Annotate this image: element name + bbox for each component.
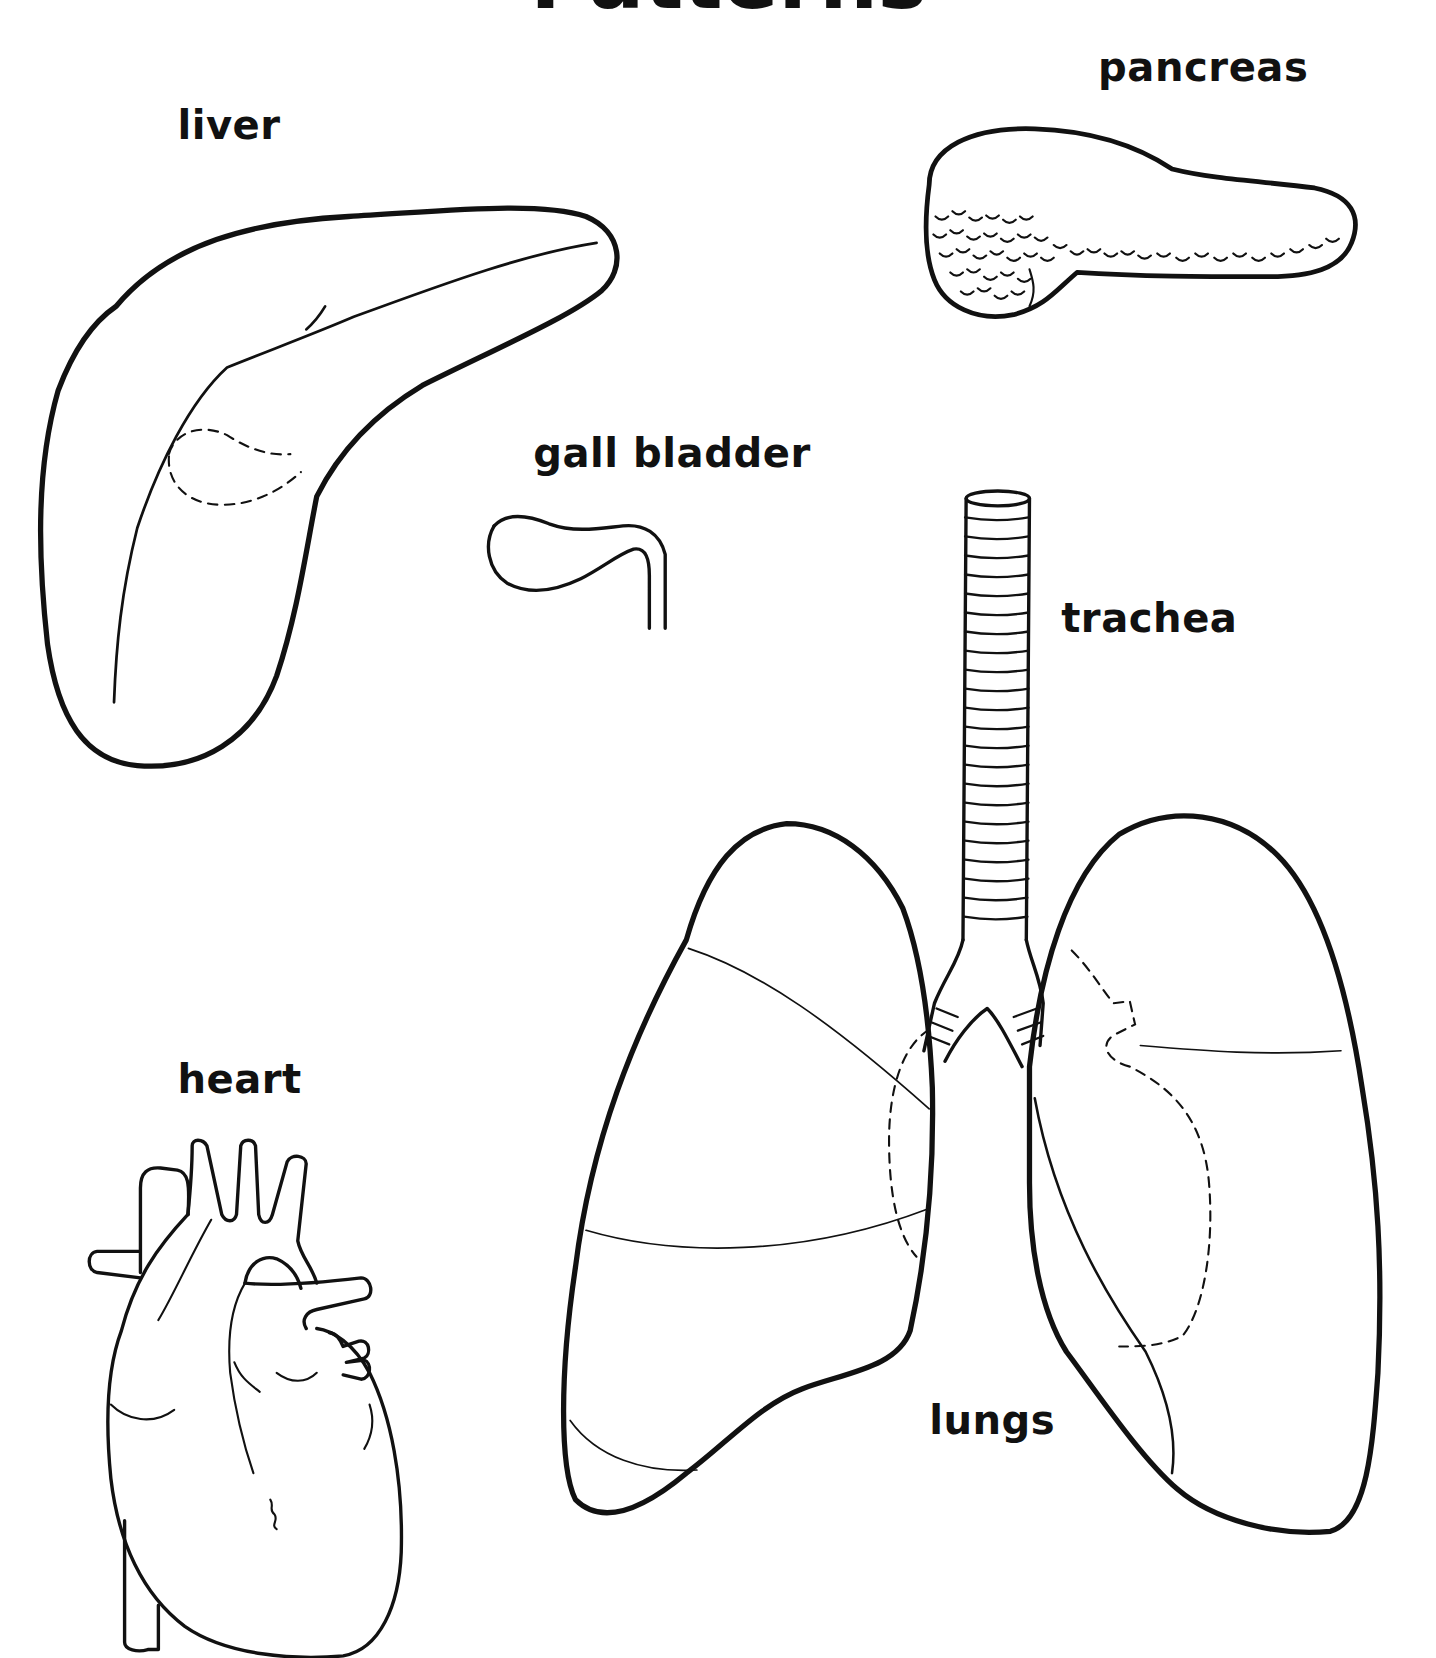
gall-bladder-illustration xyxy=(488,517,665,629)
liver-illustration xyxy=(41,208,617,766)
trachea-illustration xyxy=(924,491,1043,1067)
label-gall-bladder: gall bladder xyxy=(533,430,810,476)
heart-illustration xyxy=(89,1140,401,1657)
label-liver: liver xyxy=(177,102,280,148)
worksheet: Patterns liver pancreas gall bladder tra… xyxy=(0,0,1436,1658)
label-pancreas: pancreas xyxy=(1098,44,1308,90)
label-lungs: lungs xyxy=(929,1397,1055,1443)
label-heart: heart xyxy=(177,1056,301,1102)
organ-diagram: Patterns liver pancreas gall bladder tra… xyxy=(0,0,1436,1658)
label-trachea: trachea xyxy=(1061,595,1237,641)
page-title: Patterns xyxy=(530,0,927,27)
pancreas-illustration xyxy=(926,129,1355,317)
